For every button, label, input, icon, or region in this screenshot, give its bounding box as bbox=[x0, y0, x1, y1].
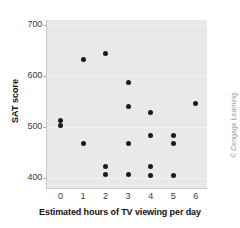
data-point bbox=[148, 173, 153, 178]
y-axis-tick-mark bbox=[43, 76, 47, 77]
y-axis-tick-mark bbox=[43, 25, 47, 26]
data-point bbox=[193, 101, 198, 106]
y-axis-tick-label: 600 bbox=[2, 70, 42, 80]
data-point bbox=[171, 133, 176, 138]
x-axis-tick-label: 6 bbox=[188, 191, 204, 201]
y-axis-tick-label: 400 bbox=[2, 172, 42, 182]
data-point bbox=[171, 173, 176, 178]
data-point bbox=[81, 141, 86, 146]
data-point bbox=[126, 104, 131, 109]
gridline bbox=[47, 76, 207, 77]
y-axis-tick-label: 500 bbox=[2, 121, 42, 131]
x-axis-tick-label: 1 bbox=[75, 191, 91, 201]
y-axis-title: SAT score bbox=[10, 65, 20, 137]
x-axis-title: Estimated hours of TV viewing per day bbox=[0, 207, 240, 217]
y-axis-tick-mark bbox=[43, 127, 47, 128]
y-axis-tick-label: 700 bbox=[2, 19, 42, 29]
data-point bbox=[126, 80, 131, 85]
data-point bbox=[103, 51, 108, 56]
data-point bbox=[171, 141, 176, 146]
x-axis-tick-label: 4 bbox=[143, 191, 159, 201]
x-axis-tick-label: 5 bbox=[165, 191, 181, 201]
data-point bbox=[126, 172, 131, 177]
data-point bbox=[103, 172, 108, 177]
x-axis-line bbox=[47, 188, 208, 189]
data-point bbox=[103, 164, 108, 169]
data-point bbox=[148, 133, 153, 138]
x-axis-tick-label: 3 bbox=[120, 191, 136, 201]
x-axis-tick-label: 2 bbox=[98, 191, 114, 201]
data-point bbox=[148, 164, 153, 169]
gridline bbox=[47, 25, 207, 26]
y-axis-tick-mark bbox=[43, 178, 47, 179]
data-point bbox=[58, 118, 63, 123]
gridline bbox=[47, 127, 207, 128]
x-axis-tick-label: 0 bbox=[53, 191, 69, 201]
plot-area bbox=[47, 20, 207, 188]
data-point bbox=[148, 110, 153, 115]
data-point bbox=[126, 141, 131, 146]
copyright-credit: © Cengage Learning bbox=[230, 91, 237, 161]
data-point bbox=[81, 57, 86, 62]
y-axis-line bbox=[46, 20, 47, 189]
gridline bbox=[47, 178, 207, 179]
scatter-plot-figure: 700600500400 0123456 SAT score Estimated… bbox=[0, 0, 240, 228]
